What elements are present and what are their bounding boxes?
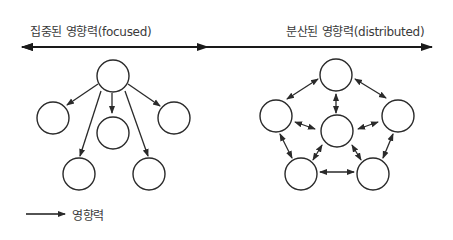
distributed-node-left	[260, 100, 292, 132]
focused-nodes	[37, 60, 190, 190]
focused-node-mid-left	[37, 102, 69, 134]
distributed-nodes	[260, 59, 414, 190]
influence-diagram: 집중된 영향력(focused) 분산된 영향력(distributed) 영향…	[0, 0, 453, 240]
distributed-node-bottom-right	[357, 158, 389, 190]
distributed-label: 분산된 영향력(distributed)	[286, 22, 424, 39]
distributed-node-right	[382, 100, 414, 132]
distributed-node-bottom-left	[285, 158, 317, 190]
distributed-node-top	[320, 59, 352, 91]
focused-node-bottom-left	[63, 158, 95, 190]
focused-node-top	[97, 60, 129, 92]
focused-node-mid-right	[158, 102, 190, 134]
focused-node-mid-center	[97, 117, 129, 149]
focused-node-bottom-right	[133, 158, 165, 190]
legend-label: 영향력	[72, 206, 104, 223]
focused-label: 집중된 영향력(focused)	[30, 22, 151, 39]
distributed-node-center	[321, 115, 353, 147]
